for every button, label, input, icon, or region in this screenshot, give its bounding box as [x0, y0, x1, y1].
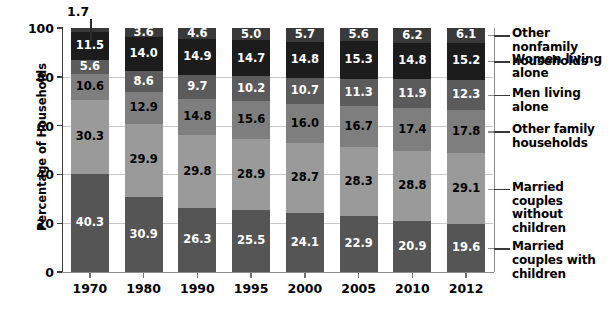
bar-segment[interactable]: 30.9	[125, 197, 163, 272]
bar-2012[interactable]: 19.629.117.812.315.26.1	[447, 28, 485, 272]
legend-leader-line	[494, 95, 510, 97]
bar-segment[interactable]: 9.7	[178, 75, 216, 99]
bar-segment-value: 40.3	[76, 217, 104, 229]
bar-segment[interactable]: 14.7	[232, 40, 270, 76]
bar-segment-value: 14.8	[398, 55, 426, 67]
bar-segment-value: 15.2	[452, 55, 480, 67]
bar-segment-value: 6.1	[456, 29, 476, 41]
bar-segment[interactable]: 10.7	[286, 78, 324, 104]
bar-segment-value: 9.7	[187, 81, 207, 93]
bar-segment[interactable]: 29.9	[125, 124, 163, 197]
bar-segment-value: 17.4	[398, 124, 426, 136]
bar-segment-value: 12.3	[452, 89, 480, 101]
x-axis-tick-label-1995: 1995	[221, 281, 281, 296]
legend-label[interactable]: Married couples with children	[512, 240, 616, 282]
x-axis-tick-label-1980: 1980	[114, 281, 174, 296]
bar-segment-value: 29.1	[452, 183, 480, 195]
bar-segment[interactable]: 6.2	[393, 28, 431, 43]
bar-segment[interactable]: 14.9	[178, 39, 216, 75]
x-axis-tick-mark	[89, 273, 90, 278]
bar-2005[interactable]: 22.928.316.711.315.35.6	[340, 28, 378, 272]
x-axis-line	[62, 272, 494, 273]
bar-segment[interactable]: 11.3	[340, 79, 378, 107]
bar-segment[interactable]: 26.3	[178, 208, 216, 272]
legend-label[interactable]: Women living alone	[512, 53, 616, 81]
bar-segment-value: 6.2	[402, 30, 422, 42]
bar-segment[interactable]: 40.3	[71, 174, 109, 272]
bar-segment[interactable]: 10.6	[71, 74, 109, 100]
bar-segment[interactable]: 14.8	[286, 42, 324, 78]
bar-segment[interactable]: 3.6	[125, 28, 163, 37]
bar-segment[interactable]: 17.8	[447, 110, 485, 153]
bar-segment-value: 19.6	[452, 242, 480, 254]
bar-segment[interactable]: 14.8	[178, 99, 216, 135]
stacked-bar-chart: Percentage of Households 100806040200 40…	[0, 0, 616, 315]
bar-segment[interactable]: 6.1	[447, 28, 485, 43]
bar-segment[interactable]: 29.8	[178, 135, 216, 208]
bar-segment[interactable]: 12.3	[447, 80, 485, 110]
bar-segment[interactable]: 28.7	[286, 143, 324, 213]
bar-segment[interactable]: 12.9	[125, 92, 163, 123]
bar-segment-value: 5.6	[348, 29, 368, 41]
legend-bracket	[494, 28, 495, 272]
bar-segment[interactable]: 5.7	[286, 28, 324, 42]
bar-segment[interactable]: 19.6	[447, 224, 485, 272]
legend-leader-line	[494, 35, 510, 37]
bar-segment[interactable]: 8.6	[125, 71, 163, 92]
bar-segment-value: 10.7	[291, 85, 319, 97]
y-axis-tick-label: 60	[37, 119, 54, 134]
bar-segment[interactable]: 16.7	[340, 106, 378, 147]
bar-segment[interactable]: 15.2	[447, 43, 485, 80]
bar-segment-value: 5.6	[80, 61, 100, 73]
bar-segment-value: 14.8	[291, 54, 319, 66]
bar-1990[interactable]: 26.329.814.89.714.94.6	[178, 28, 216, 272]
bar-segment[interactable]: 25.5	[232, 210, 270, 272]
bar-segment[interactable]: 28.3	[340, 147, 378, 216]
bar-segment-value: 14.8	[183, 111, 211, 123]
bar-segment[interactable]: 14.0	[125, 37, 163, 71]
bar-segment[interactable]: 30.3	[71, 100, 109, 174]
bar-segment-value: 14.9	[183, 51, 211, 63]
callout-value-1-7: 1.7	[67, 4, 89, 19]
bar-segment-value: 16.7	[344, 121, 372, 133]
bar-segment-value: 20.9	[398, 241, 426, 253]
bar-segment-value: 22.9	[344, 238, 372, 250]
bar-segment[interactable]: 5.0	[232, 28, 270, 40]
bar-segment[interactable]: 11.9	[393, 79, 431, 108]
bar-2000[interactable]: 24.128.716.010.714.85.7	[286, 28, 324, 272]
legend-label[interactable]: Married couples without children	[512, 181, 616, 237]
x-axis-tick-label-1970: 1970	[60, 281, 120, 296]
bar-segment[interactable]: 16.0	[286, 104, 324, 143]
bar-segment[interactable]: 29.1	[447, 153, 485, 224]
bar-1980[interactable]: 30.929.912.98.614.03.6	[125, 28, 163, 272]
bar-segment[interactable]: 24.1	[286, 213, 324, 272]
bar-1995[interactable]: 25.528.915.610.214.75.0	[232, 28, 270, 272]
bar-segment[interactable]: 10.2	[232, 76, 270, 101]
bar-2010[interactable]: 20.928.817.411.914.86.2	[393, 28, 431, 272]
bar-segment[interactable]: 20.9	[393, 221, 431, 272]
legend-label[interactable]: Men living alone	[512, 87, 616, 115]
bar-segment[interactable]: 15.3	[340, 41, 378, 78]
bar-segment-value: 4.6	[187, 28, 207, 39]
bar-segment[interactable]: 5.6	[340, 28, 378, 42]
y-axis-tick-label: 20	[37, 216, 54, 231]
bar-segment[interactable]: 22.9	[340, 216, 378, 272]
bar-segment-value: 14.0	[129, 48, 157, 60]
bar-segment-value: 29.8	[183, 166, 211, 178]
legend-leader-line	[494, 248, 510, 250]
bar-segment-value: 25.5	[237, 235, 265, 247]
plot-area: 40.330.310.65.611.530.929.912.98.614.03.…	[63, 28, 493, 272]
y-axis-tick-label: 80	[37, 70, 54, 85]
legend-label[interactable]: Other family households	[512, 123, 616, 151]
bar-segment[interactable]: 4.6	[178, 28, 216, 39]
x-axis-tick-label-2000: 2000	[275, 281, 335, 296]
bar-1970[interactable]: 40.330.310.65.611.5	[71, 28, 109, 272]
bar-segment[interactable]: 28.9	[232, 139, 270, 210]
bar-segment[interactable]: 15.6	[232, 101, 270, 139]
bar-segment[interactable]: 28.8	[393, 151, 431, 221]
y-axis-tick-label: 40	[37, 167, 54, 182]
bar-segment[interactable]: 14.8	[393, 43, 431, 79]
bar-segment[interactable]: 17.4	[393, 108, 431, 150]
bar-segment-value: 16.0	[291, 118, 319, 130]
bar-segment[interactable]: 5.6	[71, 60, 109, 74]
